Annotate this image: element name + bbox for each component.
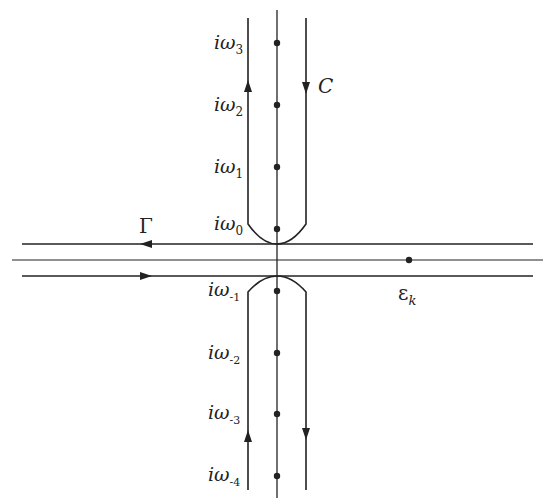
pole-label: iω-1 [208,278,240,304]
arrow-left-icon [140,240,152,248]
contour-c-label: C [318,74,333,98]
arrow-up-icon [244,80,252,92]
contour-diagram: iω3 iω2 iω1 iω0 iω-1 iω-2 iω-3 iω-4 C Γ … [0,0,547,504]
pole-label: iω1 [214,155,243,181]
arrow-right-icon [140,272,152,280]
epsilon-k-dot [406,257,412,263]
pole-label: iω2 [214,93,243,119]
arrow-up-icon [244,430,252,442]
pole-label: iω-3 [208,401,240,427]
pole-label: iω-2 [208,341,240,367]
epsilon-k-label: εk [398,281,416,308]
pole-label: iω3 [214,31,243,57]
arrow-down-icon [302,82,310,94]
contour-gamma-label: Γ [139,214,153,238]
pole-label: iω-4 [208,463,240,489]
arrow-down-icon [302,428,310,440]
pole-label: iω0 [214,212,243,238]
